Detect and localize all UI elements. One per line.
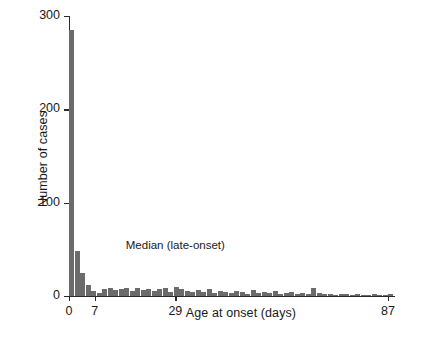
histogram-bar [262,292,267,296]
histogram-bar [212,293,217,296]
histogram-bar [300,293,305,296]
y-tick: 100 [64,203,69,204]
histogram-bar [130,291,135,296]
histogram-bar [157,289,162,296]
histogram-bar [267,293,272,296]
histogram-bar [234,291,239,296]
histogram-bar [355,294,360,296]
y-tick-label: 300 [39,8,60,22]
histogram-bar [196,290,201,296]
histogram-bar [108,288,113,296]
histogram-bar [256,293,261,296]
histogram-figure: Number of cases 0100200300 072987 Median… [0,0,422,339]
histogram-bar [295,294,300,296]
x-axis-title: Age at onset (days) [0,306,422,320]
histogram-bar [80,273,85,296]
histogram-bar [322,294,327,296]
histogram-bar [163,288,168,296]
histogram-bar [366,295,371,296]
histogram-bar [289,292,294,296]
histogram-bar [152,291,157,296]
histogram-bar [146,289,151,296]
histogram-bar [102,289,107,296]
histogram-bar [229,293,234,296]
histogram-bar [372,294,377,296]
histogram-bar [135,288,140,296]
histogram-bar [251,290,256,296]
histogram-bar [119,289,124,296]
y-tick-label: 200 [39,101,60,115]
y-tick-label: 100 [39,195,60,209]
x-tick [95,296,96,301]
histogram-bar [328,294,333,296]
y-tick-label: 0 [53,288,60,302]
histogram-bar [190,292,195,296]
histogram-bar [124,288,129,296]
histogram-bar [179,289,184,296]
plot-area: 0100200300 072987 Median (late-onset) [69,16,399,296]
histogram-bar [75,251,80,296]
histogram-bar [339,294,344,296]
x-tick [388,296,389,301]
histogram-bar [333,295,338,296]
histogram-bar [245,294,250,296]
histogram-bar [86,285,91,296]
histogram-bar [69,30,74,296]
histogram-bar [361,295,366,296]
histogram-bar [240,292,245,296]
histogram-bar [185,291,190,296]
histogram-bar [284,293,289,296]
histogram-bar [311,288,316,296]
x-axis-title-text: Age at onset (days) [126,306,296,320]
histogram-bar [344,294,349,296]
histogram-bar [350,295,355,296]
histogram-bar [218,291,223,296]
histogram-bar [377,295,382,296]
x-tick [69,296,70,301]
histogram-bar [141,290,146,296]
histogram-bar [306,294,311,296]
bar-series [69,16,399,296]
histogram-bar [223,292,228,296]
median-annotation: Median (late-onset) [126,239,225,251]
y-axis-title: Number of cases [36,69,50,249]
y-tick: 200 [64,109,69,110]
histogram-bar [207,289,212,296]
histogram-bar [174,287,179,296]
x-axis-spine [69,296,395,297]
histogram-bar [97,293,102,296]
histogram-bar [317,293,322,296]
histogram-bar [278,294,283,296]
histogram-bar [273,291,278,296]
x-tick [175,296,176,301]
histogram-bar [168,292,173,296]
histogram-bar [113,290,118,296]
histogram-bar [383,295,388,296]
y-tick: 300 [64,16,69,17]
histogram-bar [201,292,206,296]
